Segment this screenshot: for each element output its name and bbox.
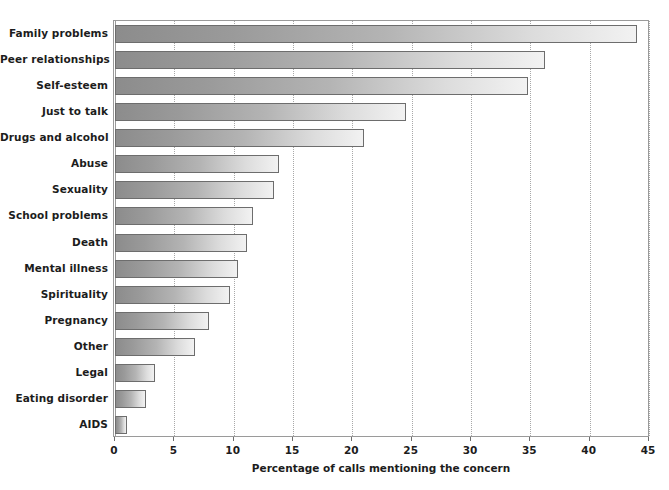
- x-axis-tick-mark: [173, 437, 174, 441]
- x-axis-tick-label: 25: [391, 444, 431, 456]
- x-axis-tick-mark: [351, 437, 352, 441]
- x-axis-tick-label: 20: [331, 444, 371, 456]
- bar: [115, 234, 247, 252]
- x-axis-tick-label: 30: [450, 444, 490, 456]
- bar: [115, 338, 195, 356]
- y-axis-tick-label: Sexuality: [0, 183, 108, 195]
- x-axis-tick-label: 15: [272, 444, 312, 456]
- x-axis-tick-label: 10: [213, 444, 253, 456]
- y-axis-tick-label: Peer relationships: [0, 53, 108, 65]
- bar: [115, 155, 279, 173]
- bar: [115, 207, 253, 225]
- bar: [115, 312, 209, 330]
- x-axis-tick-label: 45: [628, 444, 668, 456]
- y-axis-tick-label: AIDS: [0, 418, 108, 430]
- gridline-40: [590, 21, 591, 436]
- bar-chart: Family problemsPeer relationshipsSelf-es…: [0, 0, 669, 490]
- x-axis-tick-mark: [114, 437, 115, 441]
- x-axis-tick-label: 5: [153, 444, 193, 456]
- bar: [115, 103, 406, 121]
- bar: [115, 51, 545, 69]
- x-axis-tick-mark: [529, 437, 530, 441]
- bar: [115, 364, 155, 382]
- y-axis-tick-label: Just to talk: [0, 105, 108, 117]
- x-axis-tick-mark: [292, 437, 293, 441]
- y-axis-tick-label: Mental illness: [0, 262, 108, 274]
- plot-area: [113, 20, 649, 437]
- x-axis-tick-mark: [411, 437, 412, 441]
- y-axis-tick-label: Eating disorder: [0, 392, 108, 404]
- bar: [115, 286, 230, 304]
- y-axis-tick-label: Pregnancy: [0, 314, 108, 326]
- y-axis-tick-label: Death: [0, 236, 108, 248]
- x-axis-tick-label: 0: [94, 444, 134, 456]
- x-axis-tick-label: 40: [569, 444, 609, 456]
- x-axis-title: Percentage of calls mentioning the conce…: [113, 462, 649, 474]
- gridline-45: [649, 21, 650, 436]
- bar: [115, 181, 274, 199]
- y-axis-tick-label: Abuse: [0, 157, 108, 169]
- plot-inner: [114, 21, 648, 436]
- y-axis-tick-label: Legal: [0, 366, 108, 378]
- y-axis-tick-label: Self-esteem: [0, 79, 108, 91]
- y-axis-category-labels: Family problemsPeer relationshipsSelf-es…: [0, 20, 108, 437]
- gridline-35: [530, 21, 531, 436]
- x-axis-tick-mark: [470, 437, 471, 441]
- x-axis-tick-mark: [648, 437, 649, 441]
- bar: [115, 25, 637, 43]
- x-axis-tick-mark: [589, 437, 590, 441]
- bar: [115, 129, 364, 147]
- y-axis-tick-label: Family problems: [0, 27, 108, 39]
- y-axis-tick-label: Other: [0, 340, 108, 352]
- x-axis-tick-label: 35: [509, 444, 549, 456]
- y-axis-tick-label: Spirituality: [0, 288, 108, 300]
- y-axis-tick-label: Drugs and alcohol: [0, 131, 108, 143]
- x-axis-tick-mark: [233, 437, 234, 441]
- bar: [115, 260, 238, 278]
- bar: [115, 77, 528, 95]
- bar: [115, 416, 127, 434]
- bar: [115, 390, 146, 408]
- y-axis-tick-label: School problems: [0, 209, 108, 221]
